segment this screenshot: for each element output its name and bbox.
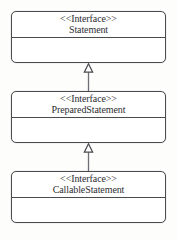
- hollow-triangle-arrowhead-icon: [84, 144, 92, 152]
- uml-class-name: PreparedStatement: [52, 105, 126, 115]
- uml-class-callablestatement[interactable]: <<Interface>> CallableStatement: [11, 171, 166, 223]
- uml-stereotype: <<Interface>>: [60, 174, 117, 184]
- uml-stereotype: <<Interface>>: [60, 94, 117, 104]
- uml-class-preparedstatement[interactable]: <<Interface>> PreparedStatement: [11, 91, 166, 143]
- uml-class-members-compartment: [12, 198, 165, 222]
- generalization-prepared-to-statement: [84, 64, 92, 91]
- uml-class-statement[interactable]: <<Interface>> Statement: [11, 11, 166, 63]
- hollow-triangle-arrowhead-icon: [84, 64, 92, 72]
- uml-stereotype: <<Interface>>: [60, 14, 117, 24]
- uml-class-members-compartment: [12, 38, 165, 62]
- uml-class-members-compartment: [12, 118, 165, 142]
- uml-class-header: <<Interface>> PreparedStatement: [12, 92, 165, 118]
- uml-class-header: <<Interface>> CallableStatement: [12, 172, 165, 198]
- uml-class-name: Statement: [69, 25, 108, 35]
- generalization-callable-to-prepared: [84, 144, 92, 171]
- uml-class-diagram: <<Interface>> Statement <<Interface>> Pr…: [0, 0, 178, 240]
- uml-class-name: CallableStatement: [53, 185, 125, 195]
- uml-class-header: <<Interface>> Statement: [12, 12, 165, 38]
